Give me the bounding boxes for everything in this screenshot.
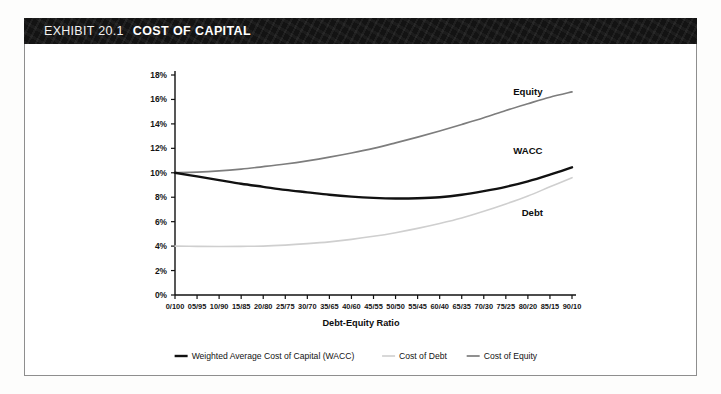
x-axis-tick-label: 80/20 [519,302,538,311]
series-line-wacc [175,167,572,198]
y-axis-tick-label: 16% [150,94,167,104]
x-axis-tick-label: 75/25 [497,302,516,311]
y-axis-tick-label: 12% [150,143,167,153]
chart-legend: Weighted Average Cost of Capital (WACC)C… [175,351,538,361]
x-axis-tick-label: 50/50 [386,302,405,311]
y-axis-tick-label: 2% [155,266,168,276]
x-axis-tick-label: 65/35 [452,302,471,311]
exhibit-root: EXHIBIT 20.1 COST OF CAPITAL 0%2%4%6%8%1… [0,0,721,394]
y-axis-tick-label: 8% [155,192,168,202]
x-axis-tick-label: 25/75 [276,302,295,311]
title-bar-texture [24,18,697,44]
x-axis-tick-label: 60/40 [430,302,449,311]
series-tag-debt: Debt [522,207,544,218]
exhibit-title-bar: EXHIBIT 20.1 COST OF CAPITAL [24,18,697,44]
x-axis-tick-label: 35/65 [320,302,339,311]
x-axis-tick-label: 55/45 [408,302,427,311]
y-axis-tick-label: 14% [150,119,167,129]
series-tag-wacc: WACC [513,145,542,156]
x-axis-tick-label: 45/55 [364,302,383,311]
x-axis-tick-label: 05/95 [188,302,207,311]
y-axis-tick-label: 4% [155,241,168,251]
x-axis-tick-label: 85/15 [541,302,560,311]
x-axis-tick-label: 20/80 [254,302,273,311]
exhibit-heading: COST OF CAPITAL [133,24,251,38]
series-line-equity [175,92,572,173]
y-axis-tick-label: 0% [155,290,168,300]
series-tag-equity: Equity [513,86,543,97]
chart-series-tags: EquityWACCDebt [513,86,544,218]
x-axis-tick-label: 0/100 [166,302,185,311]
y-axis-tick-label: 10% [150,168,167,178]
x-axis-tick-label: 10/90 [210,302,229,311]
x-axis-tick-label: 30/70 [298,302,317,311]
x-axis-title: Debt-Equity Ratio [322,318,399,328]
exhibit-number: EXHIBIT 20.1 [44,24,124,38]
y-axis-tick-labels: 0%2%4%6%8%10%12%14%16%18% [150,70,167,300]
legend-label-2: Cost of Equity [484,351,538,361]
series-line-debt [175,178,572,247]
x-axis-tick-labels: 0/10005/9510/9015/8520/8025/7530/7035/65… [166,302,582,311]
y-axis-tick-label: 18% [150,70,167,80]
x-axis-tick-label: 40/60 [342,302,361,311]
legend-label-0: Weighted Average Cost of Capital (WACC) [192,351,355,361]
x-axis-tick-label: 70/30 [475,302,494,311]
chart-area: 0%2%4%6%8%10%12%14%16%18% 0/10005/9510/9… [24,44,697,376]
x-axis-tick-label: 15/85 [232,302,251,311]
chart-series-lines [175,92,572,247]
x-axis-tick-label: 90/10 [563,302,582,311]
legend-label-1: Cost of Debt [399,351,447,361]
cost-of-capital-line-chart: 0%2%4%6%8%10%12%14%16%18% 0/10005/9510/9… [24,44,697,376]
y-axis-tick-label: 6% [155,217,168,227]
